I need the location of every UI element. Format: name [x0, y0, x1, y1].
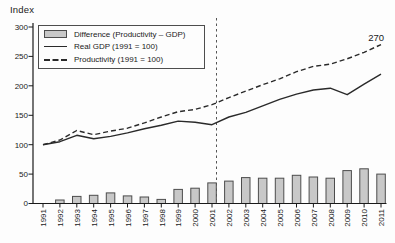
x-tick-label: 1999	[174, 208, 183, 226]
difference-bar-2009	[343, 171, 352, 204]
gray-bar-swatch-icon	[44, 30, 67, 38]
x-tick-label: 1992	[56, 208, 65, 226]
x-tick-label: 1994	[90, 208, 99, 226]
y-tick-label: 150	[15, 111, 29, 120]
difference-bar-1999	[174, 189, 183, 203]
chart: 0501001502002503001991199219931994199519…	[0, 0, 395, 243]
y-tick-label: 100	[15, 141, 29, 150]
x-tick-label: 1993	[73, 208, 82, 226]
legend-label: Real GDP (1991 = 100)	[74, 42, 158, 51]
legend-item-difference: Difference (Productivity – GDP)	[44, 28, 202, 40]
difference-bar-1997	[140, 197, 149, 204]
difference-bar-2002	[225, 181, 234, 203]
y-tick-label: 200	[15, 82, 29, 91]
x-tick-label: 2011	[377, 208, 386, 226]
x-tick-label: 1995	[107, 208, 116, 226]
difference-bar-2004	[258, 178, 267, 203]
x-tick-label: 1998	[158, 208, 167, 226]
difference-bar-1994	[89, 195, 98, 203]
y-tick-label: 0	[24, 199, 29, 208]
difference-bar-2006	[292, 175, 301, 203]
difference-bar-2008	[326, 178, 335, 203]
difference-bar-1998	[157, 199, 166, 203]
difference-bar-2007	[309, 177, 318, 204]
x-tick-label: 2003	[242, 208, 251, 226]
real-gdp-line	[43, 74, 381, 145]
x-tick-label: 2001	[208, 208, 217, 226]
annotation-270: 270	[368, 32, 384, 43]
difference-bar-2010	[360, 169, 369, 204]
legend-label: Productivity (1991 = 100)	[74, 55, 163, 64]
difference-bar-2003	[242, 178, 251, 204]
x-tick-label: 2005	[276, 208, 285, 226]
difference-bar-1995	[106, 193, 115, 204]
x-tick-label: 2010	[360, 208, 369, 226]
difference-bar-2011	[377, 174, 386, 203]
x-tick-label: 2006	[293, 208, 302, 226]
difference-bar-2000	[191, 188, 200, 203]
x-tick-label: 2002	[225, 208, 234, 226]
x-tick-label: 2004	[259, 208, 268, 226]
legend: Difference (Productivity – GDP) Real GDP…	[38, 25, 205, 69]
difference-bar-1996	[123, 196, 132, 204]
legend-label: Difference (Productivity – GDP)	[74, 30, 185, 39]
y-tick-label: 250	[15, 52, 29, 61]
x-tick-label: 2007	[310, 208, 319, 226]
y-axis-title: Index	[10, 4, 34, 15]
x-tick-label: 1996	[124, 208, 133, 226]
solid-line-swatch-icon	[44, 46, 67, 47]
difference-bar-2001	[208, 183, 217, 204]
y-tick-label: 300	[15, 23, 29, 32]
x-tick-label: 1997	[141, 208, 150, 226]
x-tick-label: 2000	[191, 208, 200, 226]
y-tick-label: 50	[19, 170, 28, 179]
dashed-line-swatch-icon	[44, 59, 67, 61]
difference-bar-2005	[275, 178, 284, 203]
difference-bar-1993	[73, 196, 82, 203]
x-tick-label: 2009	[343, 208, 352, 226]
x-tick-label: 2008	[327, 208, 336, 226]
legend-item-real-gdp: Real GDP (1991 = 100)	[44, 41, 202, 53]
x-tick-label: 1991	[39, 208, 48, 226]
legend-item-productivity: Productivity (1991 = 100)	[44, 54, 202, 66]
